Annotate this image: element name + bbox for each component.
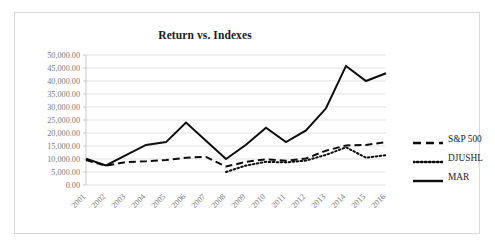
legend-swatch-dashed: [413, 134, 443, 144]
legend-swatch-solid: [413, 172, 443, 182]
y-axis-tick-label: 20,000.00: [47, 129, 80, 138]
chart-plot-area: 50,000.0045,000.0040,000.0035,000.0030,0…: [15, 13, 481, 235]
y-axis-tick-label: 45,000.00: [47, 64, 80, 73]
y-axis-tick-labels: 50,000.0045,000.0040,000.0035,000.0030,0…: [47, 51, 80, 190]
legend-label: MAR: [448, 172, 469, 182]
y-axis-tick-label: 15,000.00: [47, 142, 80, 151]
y-axis-tick-label: 35,000.00: [47, 90, 80, 99]
x-axis-tick-label: 2004: [129, 192, 147, 210]
legend-item-mar[interactable]: MAR: [413, 167, 495, 186]
x-axis-tick-label: 2011: [270, 192, 288, 210]
x-axis-tick-label: 2014: [329, 192, 347, 210]
gridlines: [83, 55, 386, 185]
x-axis-tick-label: 2001: [69, 192, 87, 210]
y-axis-tick-label: 5,000.00: [51, 168, 80, 177]
y-axis-tick-label: 25,000.00: [47, 116, 80, 125]
series-line-djushl: [226, 147, 386, 172]
x-axis-tick-label: 2003: [109, 192, 127, 210]
legend-label: DJUSHL: [448, 153, 483, 163]
legend-label: S&P 500: [448, 134, 482, 144]
legend-swatch-dotted: [413, 153, 443, 163]
y-axis-tick-label: 50,000.00: [47, 51, 80, 60]
x-axis-tick-label: 2016: [369, 192, 387, 210]
chart-legend: S&P 500DJUSHLMAR: [413, 129, 495, 186]
x-axis-tick-labels: 2001200220032004200520062007200820092010…: [69, 192, 387, 210]
y-axis-tick-label: 30,000.00: [47, 103, 80, 112]
legend-item-s-p-500[interactable]: S&P 500: [413, 129, 495, 148]
y-axis-tick-label: 40,000.00: [47, 77, 80, 86]
legend-item-djushl[interactable]: DJUSHL: [413, 148, 495, 167]
y-axis-tick-label: 0.00: [66, 181, 80, 190]
x-axis-tick-label: 2007: [189, 192, 207, 210]
chart-container: Return vs. Indexes 50,000.0045,000.0040,…: [14, 12, 480, 234]
x-axis-tick-label: 2008: [209, 192, 227, 210]
data-series-group: [86, 66, 386, 172]
x-axis-tick-label: 2005: [149, 192, 167, 210]
x-axis-tick-label: 2012: [289, 192, 307, 210]
x-axis-tick-label: 2013: [309, 192, 327, 210]
x-axis-tick-label: 2006: [169, 192, 187, 210]
x-axis-tick-label: 2010: [249, 192, 267, 210]
x-axis-tick-label: 2009: [229, 192, 247, 210]
y-axis-tick-label: 10,000.00: [47, 155, 80, 164]
x-axis-tick-label: 2015: [349, 192, 367, 210]
x-axis-tick-label: 2002: [89, 192, 107, 210]
